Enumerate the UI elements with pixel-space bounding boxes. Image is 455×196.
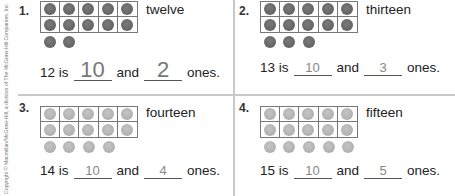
ten-frame-cell bbox=[79, 2, 98, 17]
counter-dot-icon bbox=[283, 108, 295, 120]
counter-dot-icon bbox=[44, 108, 56, 120]
ones-answer-blank[interactable]: 3 bbox=[364, 60, 402, 76]
counter-dot-icon bbox=[264, 19, 276, 31]
counter-dot-icon bbox=[303, 36, 315, 48]
ten-frame-cell bbox=[99, 107, 118, 122]
number-word: fourteen bbox=[146, 105, 196, 120]
number-word: twelve bbox=[146, 2, 184, 17]
counter-dot-icon bbox=[63, 3, 75, 15]
counter-dot-icon bbox=[44, 3, 56, 15]
counter-dot-icon bbox=[82, 3, 94, 15]
ten-frame-cell bbox=[99, 2, 118, 17]
ten-frame-cell bbox=[299, 2, 318, 17]
extra-counter-slot bbox=[299, 34, 319, 49]
ten-frame-cell bbox=[79, 107, 98, 122]
ten-frame-cell bbox=[60, 17, 79, 32]
counter-dot-icon bbox=[44, 124, 56, 136]
ten-frame-cell bbox=[319, 122, 338, 137]
counter-dot-icon bbox=[63, 108, 75, 120]
counter-dot-icon bbox=[103, 141, 115, 153]
ten-frame-cell bbox=[41, 122, 60, 137]
problem-number: 3. bbox=[19, 101, 29, 115]
ten-frame-cell bbox=[280, 122, 299, 137]
extra-counter-slot bbox=[60, 34, 80, 49]
copyright-notice: Copyright © Macmillan/McGraw-Hill, a div… bbox=[1, 0, 11, 196]
ones-answer-blank[interactable]: 2 bbox=[144, 60, 182, 81]
extra-counters bbox=[260, 139, 358, 154]
counter-dot-icon bbox=[302, 3, 314, 15]
ten-frame-cell bbox=[99, 122, 118, 137]
ones-answer-blank[interactable]: 5 bbox=[364, 163, 402, 179]
counter-dot-icon bbox=[63, 19, 75, 31]
counter-dot-icon bbox=[82, 19, 94, 31]
sentence-and: and bbox=[117, 65, 140, 81]
extra-counter-slot bbox=[280, 34, 300, 49]
ten-frame-cell bbox=[118, 107, 137, 122]
ones-answer-blank[interactable]: 4 bbox=[144, 163, 182, 179]
counter-dot-icon bbox=[82, 124, 94, 136]
tens-ones-sentence: 12 is 10 and 2 ones. bbox=[40, 60, 220, 81]
tens-answer-blank[interactable]: 10 bbox=[74, 163, 112, 179]
ten-frame-cell bbox=[319, 107, 338, 122]
counter-dot-icon bbox=[121, 19, 133, 31]
tens-ones-sentence: 15 is 10 and 5 ones. bbox=[260, 163, 440, 179]
extra-counter-slot bbox=[319, 139, 339, 154]
counter-dot-icon bbox=[341, 19, 353, 31]
counter-dot-icon bbox=[264, 3, 276, 15]
extra-counter-slot bbox=[280, 139, 300, 154]
counter-dot-icon bbox=[82, 108, 94, 120]
ten-frame-cell bbox=[338, 107, 357, 122]
ten-frame-cell bbox=[299, 122, 318, 137]
extra-counter-slot bbox=[60, 139, 80, 154]
counter-dot-icon bbox=[264, 108, 276, 120]
ten-frame bbox=[260, 1, 358, 33]
ten-frame-cell bbox=[319, 2, 338, 17]
extra-counter-slot bbox=[299, 139, 319, 154]
problem-3: 3. fourteen 14 is 10 and 4 ones. bbox=[18, 97, 233, 191]
counter-dot-icon bbox=[121, 124, 133, 136]
extra-counter-slot bbox=[338, 139, 358, 154]
ten-frame-cell bbox=[261, 107, 280, 122]
counter-dot-icon bbox=[102, 124, 114, 136]
ten-frame-cell bbox=[118, 2, 137, 17]
ten-frame-cell bbox=[41, 107, 60, 122]
ten-frame bbox=[40, 1, 138, 33]
counter-dot-icon bbox=[283, 124, 295, 136]
counter-dot-icon bbox=[102, 3, 114, 15]
tens-answer-blank[interactable]: 10 bbox=[294, 60, 332, 76]
tens-answer-blank[interactable]: 10 bbox=[294, 163, 332, 179]
problem-number: 4. bbox=[239, 101, 249, 115]
sentence-and: and bbox=[337, 60, 360, 76]
counter-dot-icon bbox=[83, 141, 95, 153]
counter-dot-icon bbox=[121, 108, 133, 120]
tens-answer-blank[interactable]: 10 bbox=[74, 60, 112, 81]
extra-counter-slot bbox=[40, 34, 60, 49]
ten-frame-cell bbox=[338, 122, 357, 137]
counter-dot-icon bbox=[302, 19, 314, 31]
ten-frame-cell bbox=[118, 17, 137, 32]
extra-counters bbox=[40, 139, 138, 154]
ten-frame-cell bbox=[41, 17, 60, 32]
problem-number: 1. bbox=[19, 4, 29, 18]
problem-1: 1. twelve 12 is 10 and 2 ones. bbox=[18, 0, 233, 94]
ten-frame-cell bbox=[60, 2, 79, 17]
extra-counter-slot bbox=[40, 139, 60, 154]
sentence-tail: ones. bbox=[407, 163, 440, 179]
ten-frame-cell bbox=[280, 2, 299, 17]
sentence-tail: ones. bbox=[187, 65, 220, 81]
sentence-lead: 13 is bbox=[260, 60, 289, 76]
counter-dot-icon bbox=[322, 124, 334, 136]
sentence-tail: ones. bbox=[187, 163, 220, 179]
counter-dot-icon bbox=[63, 124, 75, 136]
ten-frame bbox=[260, 106, 358, 138]
ten-frame-cell bbox=[280, 17, 299, 32]
vertical-divider bbox=[233, 0, 235, 196]
extra-counter-slot bbox=[260, 139, 280, 154]
ten-frame-cell bbox=[299, 17, 318, 32]
sentence-tail: ones. bbox=[407, 60, 440, 76]
counter-dot-icon bbox=[102, 108, 114, 120]
ten-frame-cell bbox=[99, 17, 118, 32]
problem-number: 2. bbox=[239, 4, 249, 18]
ten-frame-cell bbox=[79, 122, 98, 137]
horizontal-divider bbox=[18, 94, 455, 96]
